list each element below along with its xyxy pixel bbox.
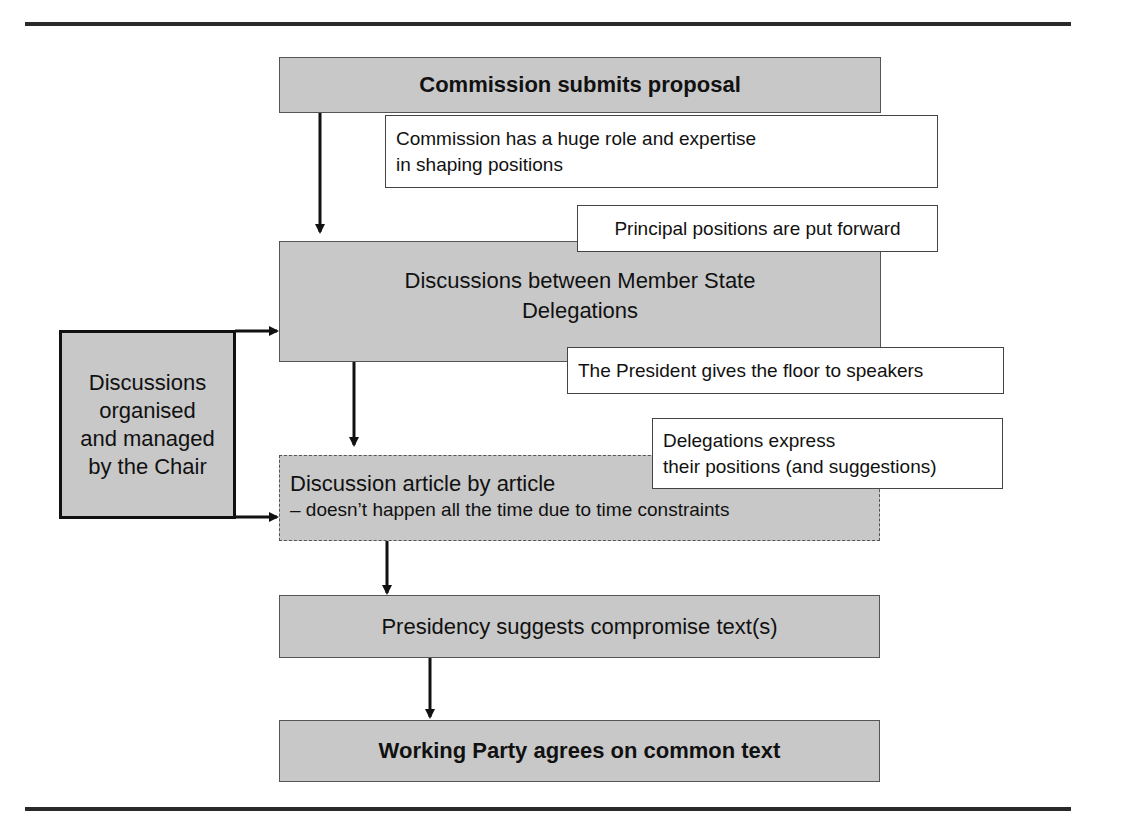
chair-label: Discussions	[89, 369, 206, 397]
step-label: Discussions between Member State	[405, 266, 756, 296]
step-label: Working Party agrees on common text	[379, 738, 781, 764]
step-sublabel: – doesn’t happen all the time due to tim…	[290, 498, 729, 522]
step-label: Discussion article by article	[290, 470, 555, 498]
callout-president-floor: The President gives the floor to speaker…	[567, 347, 1004, 394]
chair-box: Discussions organised and managed by the…	[59, 330, 236, 519]
chair-label: and managed	[80, 425, 215, 453]
callout-commission-role: Commission has a huge role and expertise…	[385, 115, 938, 188]
callout-line: The President gives the floor to speaker…	[578, 358, 993, 384]
step-commission-submits-proposal: Commission submits proposal	[279, 57, 881, 113]
step-presidency-compromise: Presidency suggests compromise text(s)	[279, 595, 880, 658]
step-label: Commission submits proposal	[419, 72, 741, 98]
callout-line: their positions (and suggestions)	[663, 454, 992, 480]
callout-line: in shaping positions	[396, 152, 927, 178]
chair-label: by the Chair	[88, 453, 207, 481]
callout-line: Principal positions are put forward	[614, 216, 900, 242]
step-label: Presidency suggests compromise text(s)	[381, 612, 777, 642]
step-working-party-agrees: Working Party agrees on common text	[279, 720, 880, 782]
callout-line: Commission has a huge role and expertise	[396, 126, 927, 152]
callout-delegations-express: Delegations express their positions (and…	[652, 418, 1003, 489]
callout-principal-positions: Principal positions are put forward	[577, 205, 938, 252]
step-member-state-discussions: Discussions between Member State Delegat…	[279, 241, 881, 362]
chair-label: organised	[99, 397, 196, 425]
step-label: Delegations	[522, 296, 638, 326]
callout-line: Delegations express	[663, 428, 992, 454]
